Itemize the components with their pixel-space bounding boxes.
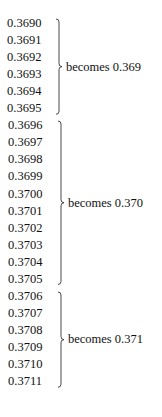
value-item: 0.3705 — [8, 272, 42, 286]
value-item: 0.3696 — [8, 118, 42, 132]
value-item: 0.3704 — [8, 255, 42, 269]
value-item: 0.3699 — [8, 169, 42, 183]
value-item: 0.3703 — [8, 238, 42, 252]
value-item: 0.3709 — [8, 340, 42, 354]
rounding-result-label: becomes 0.371 — [68, 332, 143, 346]
value-item: 0.3700 — [8, 187, 42, 201]
value-item: 0.3710 — [8, 357, 42, 371]
value-item: 0.3694 — [7, 84, 41, 98]
value-item: 0.3698 — [8, 152, 42, 166]
value-item: 0.3693 — [7, 67, 41, 81]
brace-icon — [57, 291, 67, 388]
rounding-result-label: becomes 0.370 — [68, 196, 143, 210]
value-item: 0.3692 — [7, 50, 41, 64]
value-item: 0.3695 — [7, 101, 41, 115]
value-item: 0.3711 — [8, 374, 42, 388]
brace-icon — [55, 18, 65, 115]
value-item: 0.3691 — [7, 33, 41, 47]
value-item: 0.3707 — [8, 306, 42, 320]
value-item: 0.3690 — [7, 16, 41, 30]
value-item: 0.3701 — [8, 204, 42, 218]
rounding-result-label: becomes 0.369 — [66, 60, 141, 74]
value-item: 0.3702 — [8, 221, 42, 235]
value-item: 0.3708 — [8, 323, 42, 337]
value-item: 0.3697 — [8, 135, 42, 149]
brace-icon — [57, 120, 67, 285]
value-item: 0.3706 — [8, 289, 42, 303]
